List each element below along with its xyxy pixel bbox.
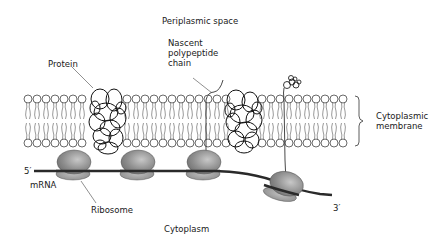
label-cytoplasm: Cytoplasm: [164, 224, 209, 234]
ribosome-leader-line: [81, 181, 96, 203]
label-three-prime: 3′: [333, 203, 340, 213]
ribosome-2: [120, 150, 155, 180]
membrane-protein-1: [89, 89, 126, 154]
label-cytoplasmic-membrane: Cytoplasmic membrane: [376, 111, 428, 131]
label-nascent-polypeptide-chain: Nascent polypeptide chain: [168, 38, 218, 68]
label-ribosome: Ribosome: [91, 205, 133, 215]
label-mrna: mRNA: [30, 180, 56, 190]
ribosome-1: [56, 150, 91, 180]
nascent-leader-line: [193, 78, 212, 93]
ribosome-3: [186, 150, 221, 180]
membrane-bracket: [355, 96, 363, 146]
membrane-translation-diagram: Periplasmic space Nascent polypeptide ch…: [0, 0, 448, 243]
protein-leader-line: [72, 67, 93, 88]
label-protein: Protein: [48, 59, 78, 69]
lipid-bilayer: [24, 95, 347, 147]
small-folded-protein: [284, 76, 302, 89]
membrane-protein-2: [225, 90, 262, 153]
label-periplasmic-space: Periplasmic space: [162, 16, 238, 26]
label-five-prime: 5′: [24, 166, 31, 176]
